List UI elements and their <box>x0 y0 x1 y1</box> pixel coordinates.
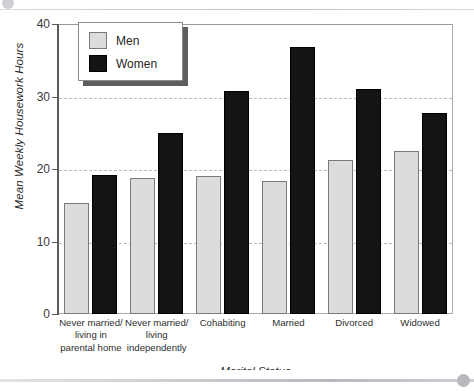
bar-women <box>290 47 315 314</box>
y-tick-label-0: 0 <box>6 307 50 321</box>
legend-item-men: Men <box>89 29 182 52</box>
bar-group <box>256 24 322 314</box>
scrollbar-track[interactable] <box>0 379 474 382</box>
legend-label-women: Women <box>116 57 157 71</box>
horizontal-scrollbar[interactable] <box>0 370 474 391</box>
clipped-header-text <box>0 0 474 9</box>
legend-item-women: Women <box>89 52 182 75</box>
bar-men <box>328 160 353 314</box>
bar-women <box>92 175 117 314</box>
legend-label-men: Men <box>116 34 139 48</box>
bar-women <box>224 91 249 314</box>
bar-men <box>262 181 287 314</box>
bar-men <box>394 151 419 314</box>
x-axis-labels: Never married/living inparental homeNeve… <box>58 317 453 363</box>
bar-men <box>130 178 155 314</box>
bar-women <box>422 113 447 314</box>
y-axis-title: Mean Weekly Housework Hours <box>13 11 25 241</box>
bar-women <box>158 133 183 314</box>
bar-chart: 010203040 Mean Weekly Housework Hours Ne… <box>0 10 474 370</box>
legend-swatch-women-icon <box>89 55 107 72</box>
legend-swatch-men-icon <box>89 32 107 49</box>
x-label-line: living <box>118 329 196 341</box>
header-dot-icon <box>2 0 14 9</box>
bar-group <box>190 24 256 314</box>
x-axis-category-label: Widowed <box>381 317 459 329</box>
legend: Men Women <box>78 22 183 81</box>
bar-men <box>64 203 89 314</box>
bar-women <box>356 89 381 314</box>
scrollbar-thumb[interactable] <box>457 374 470 387</box>
y-tick-mark-0 <box>52 314 58 315</box>
bar-men <box>196 176 221 314</box>
chart-page: 010203040 Mean Weekly Housework Hours Ne… <box>0 0 474 391</box>
x-label-line: Widowed <box>381 317 459 329</box>
bar-group <box>321 24 387 314</box>
x-label-line: independently <box>118 342 196 354</box>
bar-group <box>387 24 453 314</box>
